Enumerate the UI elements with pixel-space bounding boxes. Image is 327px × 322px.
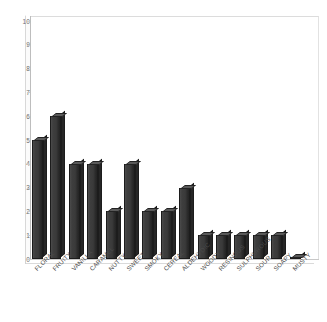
x-axis-label: SOUR [254,254,272,272]
x-axis-label: SOAPY [272,251,293,272]
x-axis-label: MUSTY [291,251,312,272]
x-axis-label: SMOKY [143,250,164,271]
x-axis-label: SWEET [125,251,146,272]
x-axis-category-labels: FLORALFRUITYVANILLACARAMELNUTTYSWEETSMOK… [0,0,327,322]
bar-chart: 109876543210 FLORALFRUITYVANILLACARAMELN… [0,0,327,322]
